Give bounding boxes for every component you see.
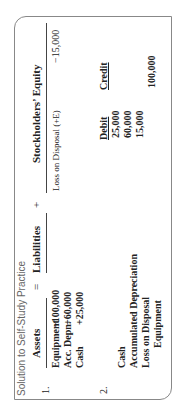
solution-title: Solution to Self-Study Practice [16, 261, 27, 396]
journal-account: Equipment [152, 300, 164, 348]
asset-row-label: Acc. Depn. [62, 322, 74, 368]
equals-sign: = [30, 284, 42, 290]
rotated-page: Solution to Self-Study Practice 1. Asset… [0, 0, 184, 418]
debit-header: Debit [98, 117, 110, 140]
equity-rule [46, 23, 47, 193]
journal-debit: 25,000 [110, 111, 122, 139]
equity-row-label: Loss on Disposal (+E) [50, 110, 62, 191]
asset-row-label: Cash [74, 346, 86, 368]
journal-debit: 60,000 [122, 111, 134, 139]
journal-account: Accumulated Depreciation [128, 254, 140, 368]
journal-account: Cash [116, 346, 128, 368]
part1-number: 1. [40, 387, 52, 395]
part2-number: 2. [98, 387, 110, 395]
assets-header: Assets [30, 329, 42, 358]
plus-sign: + [30, 202, 42, 208]
equity-row-value: −15,000 [50, 30, 62, 63]
asset-row-value: −100,000 [50, 290, 62, 328]
asset-row-value: +25,000 [74, 292, 86, 325]
journal-account: Loss on Disposal [140, 297, 152, 368]
liabilities-rule [46, 213, 47, 273]
liabilities-header: Liabilities [30, 226, 42, 273]
assets-rule [46, 298, 47, 368]
credit-header: Credit [98, 62, 110, 90]
equity-header: Stockholders’ Equity [30, 64, 42, 163]
asset-row-value: +60,000 [62, 292, 74, 325]
journal-debit: 15,000 [134, 111, 146, 139]
journal-credit: 100,000 [146, 56, 158, 89]
